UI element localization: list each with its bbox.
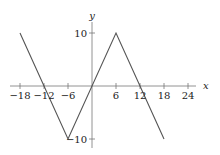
x-tick-label: 18 (158, 90, 171, 101)
axis-labels: −18−12−6612182410−10xy (9, 10, 209, 145)
chart: −18−12−6612182410−10xy (0, 0, 220, 155)
axes (10, 22, 196, 148)
y-axis-label: y (88, 10, 95, 21)
x-tick-label: −18 (9, 90, 30, 101)
x-tick-label: 12 (134, 90, 147, 101)
x-tick-label: 24 (182, 90, 195, 101)
y-tick-label: −10 (66, 134, 87, 145)
x-axis-label: x (203, 80, 209, 91)
x-tick-label: −12 (33, 90, 54, 101)
x-tick-label: −6 (61, 90, 76, 101)
x-tick-label: 6 (113, 90, 119, 101)
y-tick-label: 10 (74, 28, 87, 39)
